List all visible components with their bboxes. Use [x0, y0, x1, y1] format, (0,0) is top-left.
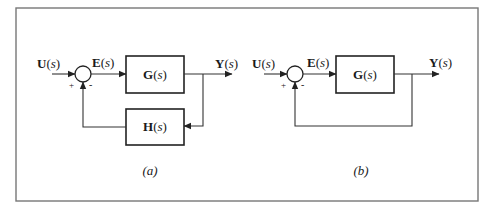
output-label-a: Y(s) — [215, 56, 238, 71]
error-label-a: E(s) — [92, 55, 114, 70]
plus-sign-b: + — [281, 80, 286, 90]
forward-block-label-a: G(s) — [143, 67, 167, 82]
forward-block-label-b: G(s) — [353, 67, 377, 82]
caption-b: (b) — [353, 163, 368, 178]
minus-sign-a: - — [89, 79, 92, 90]
input-label-b: U(s) — [252, 56, 275, 71]
block-diagram-figure: U(s) E(s) Y(s) G(s) H(s) + - (a) U(s) E(… — [0, 0, 495, 212]
feedback-block-label: H(s) — [143, 119, 167, 134]
plus-sign-a: + — [69, 80, 74, 90]
input-label-a: U(s) — [37, 56, 60, 71]
figure-frame — [16, 8, 478, 201]
caption-a: (a) — [142, 163, 157, 178]
minus-sign-b: - — [301, 79, 304, 90]
error-label-b: E(s) — [307, 55, 329, 70]
output-label-b: Y(s) — [429, 55, 452, 70]
